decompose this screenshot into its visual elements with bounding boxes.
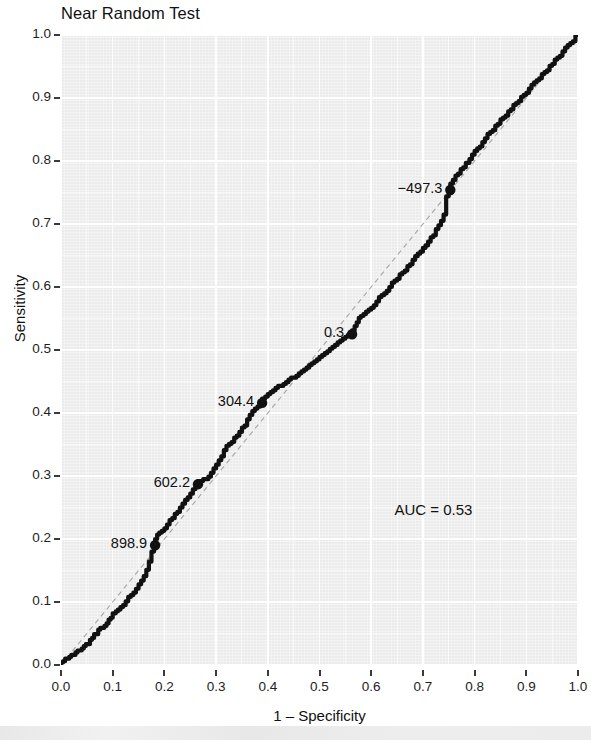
- y-axis-tick-mark: [54, 97, 60, 99]
- x-axis-title: 1 – Specificity: [61, 707, 578, 724]
- y-axis-tick-label: 0.0: [23, 656, 51, 671]
- threshold-label: 898.9: [61, 535, 147, 551]
- y-axis-tick-mark: [54, 601, 60, 603]
- x-axis-tick-label: 0.1: [93, 679, 133, 694]
- threshold-point-marker: [445, 185, 455, 195]
- y-axis-tick-label: 0.9: [23, 89, 51, 104]
- y-axis-tick-label: 1.0: [23, 26, 51, 41]
- x-axis-tick-mark: [577, 670, 579, 676]
- y-axis-tick-label: 0.5: [23, 341, 51, 356]
- y-axis-tick-label: 0.7: [23, 215, 51, 230]
- y-axis-tick-label: 0.4: [23, 404, 51, 419]
- x-axis-tick-label: 0.8: [455, 679, 495, 694]
- y-axis-tick-label: 0.6: [23, 278, 51, 293]
- auc-label: AUC = 0.53: [394, 501, 472, 518]
- threshold-label: 0.3: [254, 324, 344, 340]
- threshold-label: 602.2: [100, 474, 190, 490]
- y-axis-tick-mark: [54, 349, 60, 351]
- x-axis-tick-mark: [422, 670, 424, 676]
- threshold-point-marker: [257, 398, 267, 408]
- x-axis-tick-mark: [215, 670, 217, 676]
- x-axis-tick-mark: [112, 670, 114, 676]
- y-axis-tick-label: 0.3: [23, 467, 51, 482]
- threshold-point-marker: [193, 479, 203, 489]
- x-axis-tick-mark: [60, 670, 62, 676]
- threshold-point-marker: [347, 329, 357, 339]
- scan-artifact-strip: [0, 726, 591, 740]
- x-axis-tick-mark: [370, 670, 372, 676]
- x-axis-tick-label: 0.4: [248, 679, 288, 694]
- y-axis-tick-mark: [54, 34, 60, 36]
- y-axis-tick-mark: [54, 223, 60, 225]
- x-axis-tick-mark: [474, 670, 476, 676]
- y-axis-tick-mark: [54, 475, 60, 477]
- x-axis-tick-mark: [319, 670, 321, 676]
- roc-chart-figure: Near Random Test Sensitivity 1 – Specifi…: [0, 0, 591, 740]
- y-axis-tick-mark: [54, 538, 60, 540]
- x-axis-tick-label: 1.0: [558, 679, 591, 694]
- x-axis-tick-mark: [267, 670, 269, 676]
- x-axis-tick-mark: [163, 670, 165, 676]
- reference-diagonal-line: [61, 35, 578, 665]
- y-axis-tick-mark: [54, 412, 60, 414]
- y-axis-tick-label: 0.1: [23, 593, 51, 608]
- x-axis-tick-mark: [525, 670, 527, 676]
- page-title: Near Random Test: [61, 4, 200, 23]
- y-axis-tick-mark: [54, 664, 60, 666]
- y-axis-tick-mark: [54, 286, 60, 288]
- roc-curve-svg: [61, 35, 578, 665]
- x-axis-tick-label: 0.2: [144, 679, 184, 694]
- x-axis-tick-label: 0.7: [403, 679, 443, 694]
- x-axis-tick-label: 0.5: [300, 679, 340, 694]
- x-axis-tick-label: 0.0: [41, 679, 81, 694]
- x-axis-tick-label: 0.6: [351, 679, 391, 694]
- x-axis-tick-label: 0.9: [506, 679, 546, 694]
- threshold-label: −497.3: [352, 180, 442, 196]
- plot-panel: 898.9602.2304.40.3−497.3 AUC = 0.53: [61, 35, 578, 665]
- x-axis-tick-label: 0.3: [196, 679, 236, 694]
- threshold-label: 304.4: [164, 393, 254, 409]
- y-axis-tick-mark: [54, 160, 60, 162]
- threshold-point-marker: [150, 540, 160, 550]
- y-axis-tick-label: 0.8: [23, 152, 51, 167]
- y-axis-tick-label: 0.2: [23, 530, 51, 545]
